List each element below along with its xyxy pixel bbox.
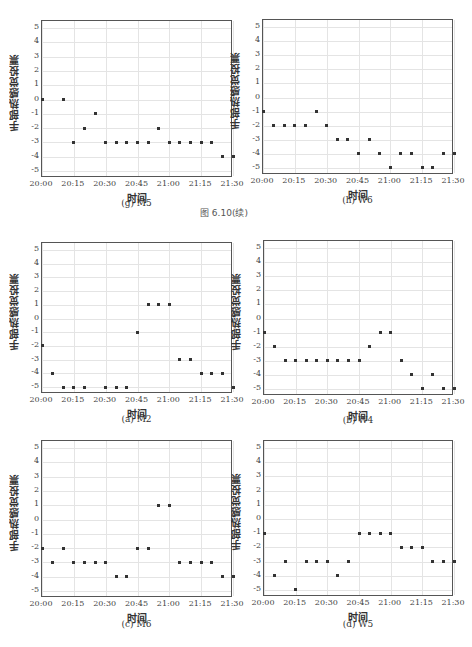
grid-line	[422, 441, 423, 595]
data-point	[221, 372, 224, 375]
grid-line	[454, 241, 455, 394]
grid-line	[42, 462, 231, 463]
data-point	[221, 575, 224, 578]
grid-line	[42, 42, 231, 43]
grid-line	[106, 243, 107, 392]
data-point	[72, 386, 75, 389]
data-point	[189, 141, 192, 144]
y-tick-label: 3	[246, 50, 260, 58]
data-point	[210, 141, 213, 144]
grid-line	[201, 21, 202, 176]
plot-area-d	[263, 440, 453, 596]
data-point	[221, 155, 224, 158]
y-tick-label: -4	[25, 368, 39, 376]
y-tick-label: 2	[25, 486, 39, 494]
y-tick-label: -1	[25, 109, 39, 117]
x-tick-label: 20:00	[247, 176, 277, 185]
grid-line	[454, 20, 455, 173]
data-point	[94, 112, 97, 115]
grid-line	[263, 20, 264, 173]
data-point	[358, 532, 361, 535]
y-tick-label: 0	[247, 314, 261, 322]
grid-line	[264, 276, 452, 277]
grid-line	[264, 241, 265, 394]
grid-line	[42, 250, 231, 251]
data-point	[368, 345, 371, 348]
y-tick-label: -2	[246, 121, 260, 129]
data-point	[210, 372, 213, 375]
data-point	[453, 152, 456, 155]
grid-line	[138, 21, 139, 176]
data-point	[305, 359, 308, 362]
grid-line	[42, 346, 231, 347]
y-tick-label: 0	[25, 314, 39, 322]
grid-line	[42, 520, 231, 521]
y-tick-label: 0	[247, 514, 261, 522]
data-point	[410, 152, 413, 155]
grid-line	[169, 21, 170, 176]
y-tick-label: -4	[246, 149, 260, 157]
y-tick-label: 2	[247, 285, 261, 293]
grid-line	[264, 448, 452, 449]
grid-line	[169, 441, 170, 596]
grid-line	[42, 171, 231, 172]
y-tick-label: 5	[247, 443, 261, 451]
data-point	[284, 560, 287, 563]
x-tick-label: 20:15	[279, 176, 309, 185]
data-point	[410, 546, 413, 549]
data-point	[157, 504, 160, 507]
y-tick-label: 5	[247, 243, 261, 251]
data-point	[104, 386, 107, 389]
y-tick-label: -3	[247, 356, 261, 364]
y-axis-label: 手部热感觉投票	[7, 273, 22, 350]
figure-caption: 图 6.10(续)	[200, 206, 248, 219]
data-point	[115, 575, 118, 578]
x-tick-label: 21:15	[406, 598, 436, 607]
x-tick-label: 21:30	[217, 395, 247, 404]
grid-line	[42, 319, 231, 320]
data-point	[272, 124, 275, 127]
grid-line	[42, 100, 231, 101]
data-point	[62, 386, 65, 389]
grid-line	[454, 441, 455, 595]
y-tick-label: 1	[25, 80, 39, 88]
y-tick-label: -1	[25, 529, 39, 537]
x-tick-label: 20:45	[122, 179, 152, 188]
data-point	[283, 124, 286, 127]
subplot-caption-c: (c) M6	[97, 619, 177, 629]
data-point	[136, 547, 139, 550]
data-point	[325, 124, 328, 127]
y-tick-label: 5	[25, 245, 39, 253]
grid-line	[42, 85, 231, 86]
grid-line	[42, 477, 231, 478]
data-point	[315, 110, 318, 113]
x-tick-label: 20:45	[122, 599, 152, 608]
data-point	[263, 331, 266, 334]
plot-area-a	[41, 242, 232, 393]
grid-line	[327, 441, 328, 595]
x-tick-label: 21:30	[438, 397, 468, 406]
y-tick-label: 3	[247, 471, 261, 479]
y-axis-label: 手部热感觉投票	[228, 52, 243, 129]
y-tick-label: -4	[247, 370, 261, 378]
grid-line	[42, 264, 231, 265]
y-tick-label: 0	[25, 515, 39, 523]
data-point	[358, 359, 361, 362]
x-tick-label: 20:15	[280, 598, 310, 607]
data-point	[421, 387, 424, 390]
subplot-caption-a: (a) M2	[97, 414, 177, 424]
data-point	[378, 152, 381, 155]
x-tick-label: 21:15	[406, 397, 436, 406]
grid-line	[391, 441, 392, 595]
data-point	[368, 138, 371, 141]
y-tick-label: 4	[247, 457, 261, 465]
data-point	[200, 372, 203, 375]
data-point	[210, 561, 213, 564]
x-tick-label: 21:00	[153, 179, 183, 188]
x-tick-label: 20:30	[311, 397, 341, 406]
grid-line	[42, 441, 43, 596]
plot-area-c	[41, 440, 232, 597]
x-tick-label: 20:30	[90, 599, 120, 608]
data-point	[262, 110, 265, 113]
grid-line	[42, 448, 231, 449]
